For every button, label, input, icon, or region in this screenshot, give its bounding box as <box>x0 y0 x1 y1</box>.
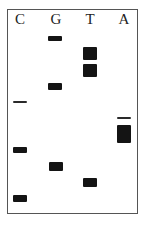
lane-label-c: C <box>10 12 30 27</box>
gel-frame <box>7 9 138 214</box>
band-t-2 <box>83 64 97 77</box>
band-g-3 <box>49 162 63 171</box>
band-c-2 <box>13 147 27 153</box>
band-a-1 <box>117 117 131 119</box>
lane-label-a: A <box>114 12 134 27</box>
band-g-2 <box>48 83 62 90</box>
band-a-2 <box>117 125 131 143</box>
band-c-3 <box>13 195 27 202</box>
lane-label-g: G <box>46 12 66 27</box>
band-g-1 <box>48 36 62 41</box>
lane-label-t: T <box>80 12 100 27</box>
band-t-3 <box>83 178 97 187</box>
band-c-1 <box>13 101 27 103</box>
band-t-1 <box>83 47 97 60</box>
